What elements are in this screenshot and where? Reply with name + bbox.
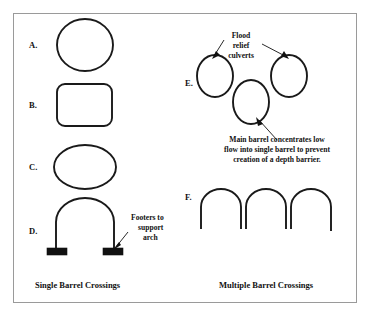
shape-a-circle-culvert: A.: [29, 19, 113, 71]
shape-label-c: C.: [29, 162, 37, 172]
shape-f-three-arches: F.: [185, 189, 331, 231]
main-barrel-line-2: flow into single barrel to prevent: [224, 145, 330, 154]
figure-root: A. B. C. D. Footers to: [0, 0, 370, 320]
arch-barrel-center: [246, 189, 286, 229]
flood-relief-line-1: Flood: [232, 31, 251, 40]
flood-relief-line-2: relief: [233, 41, 250, 50]
shape-c-elliptical-culvert: C.: [29, 145, 116, 189]
flood-relief-leader-right: [262, 44, 285, 56]
shape-label-f: F.: [185, 192, 192, 202]
shape-label-d: D.: [29, 226, 37, 236]
footers-note-line-2: support: [138, 223, 164, 232]
main-barrel-line-1: Main barrel concentrates low: [229, 135, 325, 144]
culvert-crossings-diagram: A. B. C. D. Footers to: [0, 0, 370, 320]
annotation-flood-relief-note: Flood relief culverts: [212, 31, 289, 60]
panel-single-barrel: A. B. C. D. Footers to: [29, 19, 164, 290]
shape-b-box-culvert: B.: [29, 84, 112, 126]
shape-d-arch-culvert: D.: [29, 198, 123, 255]
shape-e-three-barrels: E.: [185, 55, 307, 124]
annotation-main-barrel-note: Main barrel concentrates low flow into s…: [224, 117, 330, 164]
shape-label-b: B.: [29, 100, 37, 110]
circle-culvert-outline: [57, 19, 113, 71]
arch-culvert-outline: [56, 198, 114, 250]
arch-barrel-left: [201, 189, 241, 229]
main-barrel-line-3: creation of a depth barrier.: [233, 155, 321, 164]
arch-footer-right: [103, 248, 123, 255]
box-culvert-outline: [57, 84, 112, 126]
elliptical-culvert-outline: [54, 145, 116, 189]
caption-multiple-barrel-crossings: Multiple Barrel Crossings: [219, 280, 314, 290]
footers-note-line-1: Footers to: [131, 213, 164, 222]
caption-single-barrel-crossings: Single Barrel Crossings: [35, 280, 121, 290]
shape-label-a: A.: [29, 40, 37, 50]
arch-barrel-right: [291, 189, 331, 231]
panel-multiple-barrel: E. Flood relief culverts Main barrel con…: [185, 31, 331, 290]
shape-label-e: E.: [185, 78, 193, 88]
footers-note-line-3: arch: [143, 233, 158, 242]
annotation-footers-note: Footers to support arch: [113, 213, 164, 250]
barrel-right-outline: [271, 55, 307, 97]
barrel-center-main-outline: [233, 80, 269, 124]
barrel-left-outline: [197, 55, 233, 97]
arch-footer-left: [47, 248, 67, 255]
flood-relief-line-3: culverts: [228, 51, 254, 60]
